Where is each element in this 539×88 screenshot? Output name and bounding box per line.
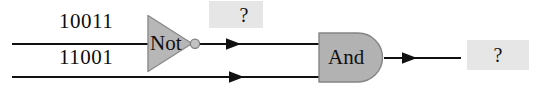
- arrow-right-icon-and-output: [402, 52, 417, 64]
- input-label-bottom: 11001: [59, 47, 113, 68]
- arrow-right-icon-bottom-input: [229, 71, 244, 83]
- input-label-top: 10011: [59, 11, 113, 32]
- not-gate-label: Not: [150, 33, 182, 54]
- and-output-value-box: ?: [467, 40, 529, 70]
- inversion-bubble-icon: [190, 39, 199, 48]
- not-output-value-box: ?: [209, 1, 263, 28]
- and-gate-label: And: [328, 47, 364, 68]
- logic-circuit-diagram: 10011 11001 Not And ? ?: [0, 0, 539, 88]
- arrow-right-icon-not-output: [226, 38, 241, 50]
